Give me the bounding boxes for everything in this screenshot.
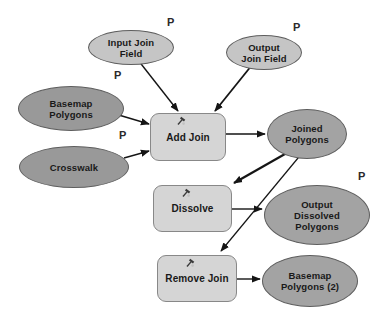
parameter-mark-output-join-field: P: [293, 21, 300, 33]
node-output-join-field[interactable]: Output Join Field: [226, 35, 302, 70]
node-joined-polygons[interactable]: Joined Polygons: [267, 109, 347, 159]
node-label: Output Dissolved Polygons: [294, 199, 340, 232]
node-label: Remove Join: [165, 273, 228, 284]
node-crosswalk[interactable]: Crosswalk: [19, 146, 129, 188]
connector-crosswalk-to-add-join[interactable]: [124, 151, 149, 158]
parameter-mark-basemap-polygons: P: [114, 69, 121, 81]
connector-input-join-field-to-add-join[interactable]: [138, 60, 178, 111]
node-basemap-polygons[interactable]: Basemap Polygons: [18, 86, 124, 131]
node-label: Joined Polygons: [285, 123, 329, 145]
modelbuilder-canvas: Input Join Field Output Join Field Basem…: [0, 0, 388, 315]
node-dissolve[interactable]: Dissolve: [153, 185, 232, 232]
node-label: Input Join Field: [108, 37, 154, 59]
node-label: Add Join: [166, 132, 210, 143]
node-input-join-field[interactable]: Input Join Field: [88, 30, 174, 65]
parameter-mark-crosswalk: P: [119, 129, 126, 141]
node-add-join[interactable]: Add Join: [150, 113, 226, 161]
node-label: Dissolve: [172, 203, 214, 214]
node-basemap-polygons-2[interactable]: Basemap Polygons (2): [262, 255, 358, 307]
node-label: Output Join Field: [241, 42, 286, 64]
hammer-icon: [185, 258, 196, 268]
node-output-dissolved-polygons[interactable]: Output Dissolved Polygons: [264, 185, 370, 245]
node-remove-join[interactable]: Remove Join: [157, 255, 237, 302]
node-label: Basemap Polygons: [49, 98, 93, 120]
parameter-mark-input-join-field: P: [167, 16, 174, 28]
hammer-icon: [176, 116, 187, 126]
node-label: Basemap Polygons (2): [281, 270, 339, 292]
connector-joined-polygons-to-dissolve[interactable]: [234, 150, 292, 183]
connector-output-join-field-to-add-join[interactable]: [215, 65, 252, 111]
parameter-mark-output-dissolved-polygons: P: [358, 170, 365, 182]
node-label: Crosswalk: [50, 162, 98, 173]
hammer-icon: [181, 188, 192, 198]
